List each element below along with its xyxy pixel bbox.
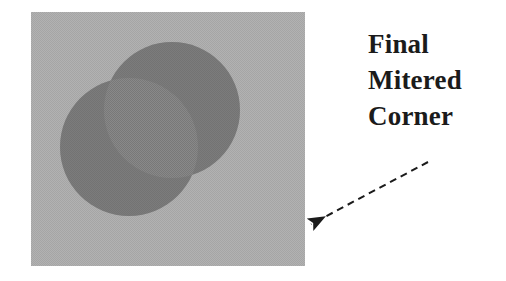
annotation-line-3: Corner [368,98,506,134]
dashed-pointer-arrow [311,162,428,224]
figure-canvas: Final Mitered Corner [0,0,506,281]
annotation-line-2: Mitered [368,62,506,98]
annotation-line-1: Final [368,26,506,62]
annotation-label: Final Mitered Corner [368,26,506,134]
